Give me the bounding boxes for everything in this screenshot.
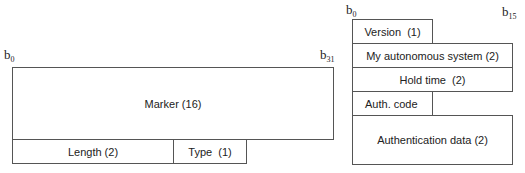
hold-time-label: Hold time (2) [399, 74, 465, 86]
my-as-field: My autonomous system (2) [352, 43, 513, 68]
bit-index: 0 [11, 55, 15, 64]
bit-start-label: b0 [4, 47, 15, 64]
bit-index: 31 [327, 55, 335, 64]
auth-data-field: Authentication data (2) [352, 115, 513, 165]
bit-index: 15 [509, 12, 517, 21]
auth-data-label: Authentication data (2) [377, 134, 488, 146]
version-field: Version (1) [352, 19, 433, 44]
auth-code-field: Auth. code [352, 91, 433, 116]
marker-label: Marker (16) [145, 98, 202, 110]
length-label: Length (2) [68, 146, 118, 158]
version-label: Version (1) [364, 26, 420, 38]
bit-index: 0 [353, 10, 357, 19]
bit-start-label: b0 [346, 2, 357, 19]
type-field: Type (1) [173, 139, 247, 164]
type-label: Type (1) [188, 146, 231, 158]
marker-field: Marker (16) [12, 67, 334, 140]
bit-end-label: b31 [320, 47, 335, 64]
auth-code-label: Auth. code [365, 98, 418, 110]
length-field: Length (2) [12, 139, 174, 164]
bit-end-label: b15 [502, 4, 517, 21]
my-as-label: My autonomous system (2) [366, 50, 499, 62]
hold-time-field: Hold time (2) [352, 67, 513, 92]
